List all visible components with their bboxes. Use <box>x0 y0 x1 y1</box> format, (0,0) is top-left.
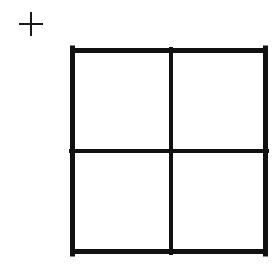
bottom-right-cell <box>174 155 264 251</box>
line-drawing-svg <box>0 0 278 269</box>
top-right-cell <box>174 53 264 149</box>
grid-square <box>71 48 267 254</box>
bottom-left-cell <box>75 155 169 251</box>
figure-canvas <box>0 0 278 269</box>
top-left-cell <box>75 53 169 149</box>
